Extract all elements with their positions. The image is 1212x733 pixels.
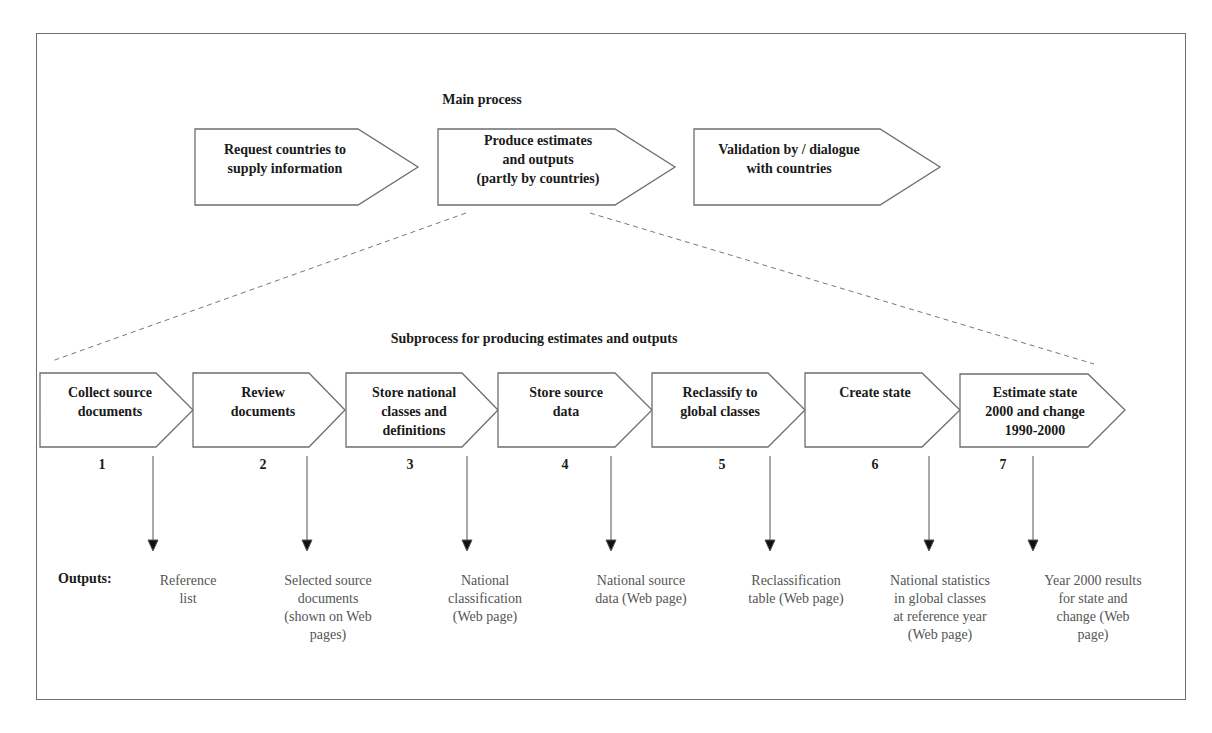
sub-step-2-label: Review documents	[231, 383, 296, 421]
outputs-label: Outputs:	[58, 571, 112, 587]
output-arrow-3	[462, 540, 472, 551]
output-arrow-4	[606, 540, 616, 551]
main-step-2-label: Produce estimates and outputs (partly by…	[477, 131, 600, 188]
main-step-3-label: Validation by / dialogue with countries	[718, 140, 859, 178]
main-step-1-label: Request countries to supply information	[224, 140, 346, 178]
output-2: Selected source documents (shown on Web …	[284, 572, 371, 644]
output-3: National classification (Web page)	[448, 572, 522, 626]
sub-step-1-label: Collect source documents	[68, 383, 152, 421]
diagram-shapes	[0, 0, 1212, 733]
step-number-2: 2	[260, 457, 267, 473]
output-arrow-5	[765, 540, 775, 551]
output-5: Reclassification table (Web page)	[748, 572, 843, 608]
output-arrow-2	[302, 540, 312, 551]
sub-step-4-label: Store source data	[529, 383, 603, 421]
output-1: Reference list	[160, 572, 217, 608]
output-7: Year 2000 results for state and change (…	[1044, 572, 1141, 644]
subprocess-title: Subprocess for producing estimates and o…	[391, 331, 678, 347]
step-number-6: 6	[872, 457, 879, 473]
sub-step-7-label: Estimate state 2000 and change 1990-2000	[985, 383, 1085, 440]
output-4: National source data (Web page)	[595, 572, 686, 608]
output-arrow-7	[1028, 540, 1038, 551]
sub-step-3-label: Store national classes and definitions	[372, 383, 456, 440]
sub-step-6-label: Create state	[839, 383, 911, 402]
step-number-7: 7	[1000, 457, 1007, 473]
step-number-4: 4	[562, 457, 569, 473]
output-arrow-1	[148, 540, 158, 551]
step-number-1: 1	[99, 457, 106, 473]
step-number-5: 5	[719, 457, 726, 473]
output-arrow-6	[924, 540, 934, 551]
output-6: National statistics in global classes at…	[890, 572, 990, 644]
sub-step-5-label: Reclassify to global classes	[680, 383, 760, 421]
step-number-3: 3	[407, 457, 414, 473]
main-process-title: Main process	[442, 92, 521, 108]
